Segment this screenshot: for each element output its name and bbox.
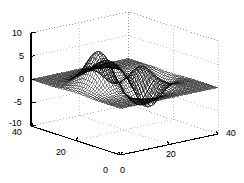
surface-plot-svg	[0, 0, 244, 183]
axes-frame	[31, 12, 218, 41]
ztick-label-minus-5: -5	[14, 98, 22, 107]
xtick-label-20: 20	[166, 150, 176, 159]
ztick-label-10: 10	[12, 29, 22, 38]
ztick-label-5: 5	[19, 52, 24, 61]
ytick-label-20: 20	[56, 148, 66, 157]
xtick-label-40: 40	[226, 129, 236, 138]
xtick-label-0: 0	[120, 166, 125, 175]
ztick-label-0: 0	[19, 75, 24, 84]
ytick-label-0: 0	[103, 166, 108, 175]
ytick-label-40: 40	[12, 128, 22, 137]
figure-canvas: 1050-5-104020002040	[0, 0, 244, 183]
surface-mesh	[31, 52, 218, 109]
